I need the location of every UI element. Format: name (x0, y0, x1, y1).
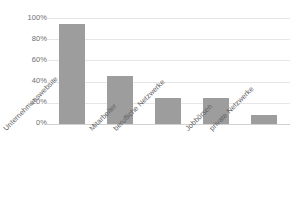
bar-private-netzwerke (251, 115, 277, 125)
y-axis-tick-label: 100% (2, 14, 47, 22)
y-axis-tick-label: 60% (2, 56, 47, 64)
x-axis-baseline (47, 124, 290, 125)
bar-series (47, 18, 290, 124)
y-axis-tick-label: 80% (2, 35, 47, 43)
bar-chart: 100% 80% 60% 40% 20% 0% Unternehmenswebs… (0, 0, 298, 213)
plot-area (47, 18, 290, 124)
bar-unternehmenswebsite (59, 24, 85, 124)
bar-berufliche-netzwerke (155, 98, 181, 125)
y-axis-tick-label: 40% (2, 77, 47, 85)
